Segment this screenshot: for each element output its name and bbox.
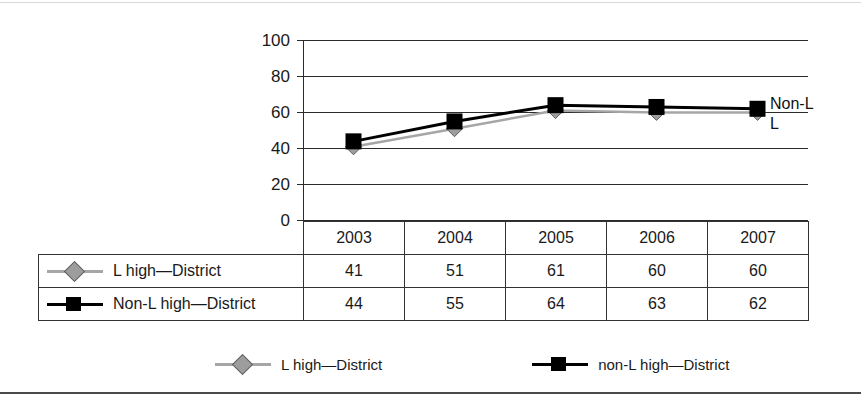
row-label-l-high-district: L high—District	[39, 255, 304, 288]
data-point-nonl-2007	[750, 101, 766, 117]
data-point-nonl-2005	[548, 97, 564, 113]
cell-l-2004: 51	[405, 255, 506, 288]
column-header-2005: 2005	[506, 222, 607, 255]
row-label-text: Non-L high—District	[113, 295, 256, 313]
table-corner-cell	[39, 222, 304, 255]
data-point-nonl-2006	[649, 99, 665, 115]
square-marker-icon	[47, 295, 103, 313]
y-tick-label-40: 40	[230, 140, 290, 157]
table-header-row: 2003 2004 2005 2006 2007	[39, 222, 809, 255]
y-tick-label-100: 100	[230, 32, 290, 49]
y-tick-label-60: 60	[230, 104, 290, 121]
legend-label: L high—District	[281, 356, 382, 373]
data-table: 2003 2004 2005 2006 2007 L high—District…	[38, 221, 809, 321]
cell-nonl-2004: 55	[405, 288, 506, 321]
row-label-text: L high—District	[113, 262, 221, 280]
series-plot	[303, 40, 808, 221]
y-tick-label-20: 20	[230, 176, 290, 193]
chart-figure: 100 80 60 40 20 0 Non-L L 2003 2	[0, 0, 861, 407]
cell-nonl-2006: 63	[607, 288, 708, 321]
cell-nonl-2003: 44	[304, 288, 405, 321]
column-header-2006: 2006	[607, 222, 708, 255]
data-point-nonl-2004	[447, 113, 463, 129]
table-row: Non-L high—District 44 55 64 63 62	[39, 288, 809, 321]
cell-l-2006: 60	[607, 255, 708, 288]
table-row: L high—District 41 51 61 60 60	[39, 255, 809, 288]
data-point-nonl-2003	[346, 133, 362, 149]
legend-item-l-high-district: L high—District	[215, 355, 382, 373]
y-tick-label-80: 80	[230, 68, 290, 85]
square-marker-icon	[532, 355, 588, 373]
diamond-marker-icon	[215, 355, 271, 373]
diamond-marker-icon	[47, 262, 103, 280]
cell-l-2003: 41	[304, 255, 405, 288]
series-end-label-nonl: Non-L	[770, 96, 814, 112]
legend-label: non-L high—District	[598, 356, 729, 373]
row-label-nonl-high-district: Non-L high—District	[39, 288, 304, 321]
cell-nonl-2007: 62	[708, 288, 809, 321]
cell-l-2005: 61	[506, 255, 607, 288]
column-header-2007: 2007	[708, 222, 809, 255]
series-end-label-l: L	[770, 116, 779, 132]
column-header-2004: 2004	[405, 222, 506, 255]
chart-legend: L high—District non-L high—District	[215, 355, 775, 373]
column-header-2003: 2003	[304, 222, 405, 255]
cell-nonl-2005: 64	[506, 288, 607, 321]
cell-l-2007: 60	[708, 255, 809, 288]
legend-item-nonl-high-district: non-L high—District	[532, 355, 729, 373]
